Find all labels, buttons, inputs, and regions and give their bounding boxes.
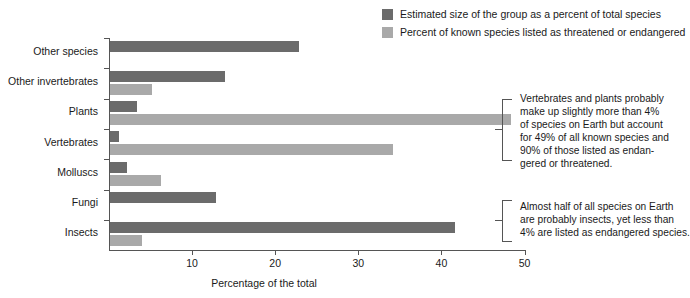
category-label-other-invertebrates: Other invertebrates xyxy=(8,75,98,87)
chart-legend: Estimated size of the group as a percent… xyxy=(382,6,682,42)
chart-figure: Estimated size of the group as a percent… xyxy=(0,0,690,298)
bar-group-plants xyxy=(110,99,526,129)
y-axis-tick xyxy=(104,99,109,100)
annotation-insects-text: Almost half of all species on Earth are … xyxy=(520,201,690,238)
bar-group-molluscs xyxy=(110,159,526,189)
x-axis-tick xyxy=(441,250,442,255)
annotation-vertebrates-plants: Vertebrates and plants probably make up … xyxy=(520,92,688,171)
bar-estimated-size xyxy=(110,222,455,233)
bar-estimated-size xyxy=(110,101,137,112)
bar-estimated-size xyxy=(110,192,216,203)
x-axis-title-text: Percentage of the total xyxy=(211,277,317,289)
x-axis-tick xyxy=(525,250,526,255)
x-axis-tick-label-10: 10 xyxy=(186,257,198,269)
y-axis-tick xyxy=(104,159,109,160)
x-axis-tick-label-50: 50 xyxy=(519,257,531,269)
bar-group-vertebrates xyxy=(110,129,526,159)
bar-group-insects xyxy=(110,220,526,250)
annotation-vertebrates-plants-text: Vertebrates and plants probably make up … xyxy=(520,93,669,169)
category-label-molluscs: Molluscs xyxy=(57,166,98,178)
bar-group-other-invertebrates xyxy=(110,68,526,98)
x-axis-tick xyxy=(358,250,359,255)
legend-swatch-estimated-size xyxy=(382,9,393,20)
bar-group-fungi xyxy=(110,190,526,220)
x-axis-tick xyxy=(275,250,276,255)
category-label-plants: Plants xyxy=(69,105,98,117)
plot-area: 10 20 30 40 50 xyxy=(109,38,526,250)
bar-percent-listed xyxy=(110,114,511,125)
x-axis-title: Percentage of the total xyxy=(0,277,690,289)
annotation-brace-insects xyxy=(502,200,512,242)
legend-swatch-percent-listed xyxy=(382,27,393,38)
y-axis-tick xyxy=(104,68,109,69)
category-label-insects: Insects xyxy=(65,226,98,238)
bar-percent-listed xyxy=(110,144,393,155)
legend-label-percent-listed: Percent of known species listed as threa… xyxy=(400,26,685,38)
category-label-other-species: Other species xyxy=(33,45,98,57)
bar-estimated-size xyxy=(110,41,299,52)
y-axis-tick xyxy=(104,190,109,191)
bar-group-other-species xyxy=(110,38,526,68)
bar-estimated-size xyxy=(110,162,127,173)
bar-estimated-size xyxy=(110,131,119,142)
y-axis-tick xyxy=(104,38,109,39)
bar-percent-listed xyxy=(110,235,142,246)
annotation-insects: Almost half of all species on Earth are … xyxy=(520,200,690,239)
bar-estimated-size xyxy=(110,71,225,82)
category-label-fungi: Fungi xyxy=(72,196,98,208)
annotation-brace-stem xyxy=(495,220,502,221)
legend-label-estimated-size: Estimated size of the group as a percent… xyxy=(400,8,661,20)
y-axis-tick xyxy=(104,129,109,130)
x-axis-line xyxy=(109,250,526,251)
bar-percent-listed xyxy=(110,175,161,186)
category-label-vertebrates: Vertebrates xyxy=(44,136,98,148)
annotation-brace-stem xyxy=(495,129,502,130)
x-axis-tick xyxy=(192,250,193,255)
legend-item-estimated-size: Estimated size of the group as a percent… xyxy=(382,6,682,22)
x-axis-tick-label-30: 30 xyxy=(352,257,364,269)
bar-percent-listed xyxy=(110,84,152,95)
y-axis-tick xyxy=(104,220,109,221)
x-axis-tick-label-40: 40 xyxy=(436,257,448,269)
x-axis-tick-label-20: 20 xyxy=(269,257,281,269)
annotation-brace-vertebrates-plants xyxy=(502,99,512,161)
